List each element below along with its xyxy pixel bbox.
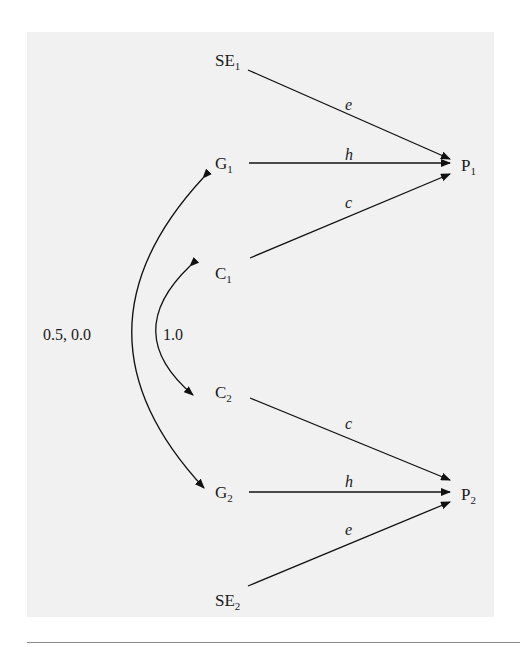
node-g1: G1 [215, 155, 233, 175]
node-c1: C1 [215, 265, 232, 285]
path-label-se2-p2: e [345, 522, 352, 538]
correlation-label-g: 0.5, 0.0 [43, 327, 91, 343]
correlation-label-c: 1.0 [163, 327, 183, 343]
bottom-rule [27, 642, 520, 643]
path-label-c1-p1: c [345, 195, 352, 211]
node-c2: C2 [215, 384, 232, 404]
path-label-se1-p1: e [345, 97, 352, 113]
path-arrows [0, 0, 520, 647]
path-label-g1-p1: h [345, 147, 353, 163]
arrow-c1-p1 [250, 174, 450, 258]
arrow-se2-p2 [248, 502, 450, 586]
arrow-c2-p2 [250, 398, 450, 480]
node-se1: SE1 [215, 52, 240, 72]
node-g2: G2 [215, 484, 233, 504]
node-p2: P2 [461, 486, 476, 506]
node-p1: P1 [461, 157, 476, 177]
path-label-g2-p2: h [345, 474, 353, 490]
node-se2: SE2 [215, 592, 240, 612]
path-label-c2-p2: c [345, 416, 352, 432]
